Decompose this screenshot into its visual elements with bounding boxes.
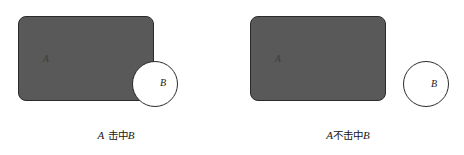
panel-hit: A B A 击中B <box>0 0 232 155</box>
panel-miss-stage: A B <box>232 0 464 122</box>
panel-miss: A B A不击中B <box>232 0 464 155</box>
caption-middle-text: 击中 <box>104 129 127 141</box>
panel-miss-caption: A不击中B <box>232 129 464 142</box>
probability-geometry-figure: A B A 击中B A B A不击中B <box>0 0 464 155</box>
panel-hit-stage: A B <box>0 0 232 122</box>
region-b-label: B <box>160 78 166 88</box>
caption-middle-text: 不击中 <box>333 129 363 141</box>
caption-trail-symbol: B <box>363 129 370 141</box>
region-a-rectangle: A <box>250 16 386 101</box>
region-b-label: B <box>431 79 437 89</box>
region-b-circle: B <box>132 61 178 107</box>
region-b-circle: B <box>403 61 449 107</box>
region-a-label: A <box>275 55 281 65</box>
region-a-label: A <box>43 55 49 65</box>
caption-trail-symbol: B <box>128 129 135 141</box>
panel-hit-caption: A 击中B <box>0 129 232 142</box>
caption-lead-symbol: A <box>326 129 333 141</box>
